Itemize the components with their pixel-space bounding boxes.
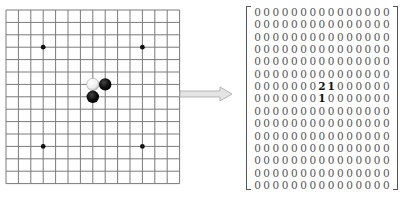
matrix-cell: 0 — [308, 92, 317, 104]
matrix-cell: 0 — [281, 31, 290, 43]
matrix-cell: 0 — [308, 43, 317, 55]
matrix-cell: 0 — [382, 31, 391, 43]
matrix-cell: 0 — [271, 68, 280, 80]
matrix-cell: 0 — [308, 6, 317, 18]
matrix-cell: 0 — [262, 18, 271, 30]
matrix-cell: 0 — [363, 179, 372, 191]
matrix-cell: 0 — [281, 117, 290, 129]
matrix-cell: 0 — [373, 92, 382, 104]
matrix-cell: 0 — [299, 154, 308, 166]
matrix-cell: 0 — [327, 31, 336, 43]
matrix-cell: 0 — [317, 167, 326, 179]
matrix-cell: 0 — [382, 167, 391, 179]
matrix-cell: 0 — [281, 6, 290, 18]
matrix-cell: 0 — [281, 167, 290, 179]
matrix-cell: 0 — [308, 55, 317, 67]
matrix-cell: 0 — [281, 68, 290, 80]
matrix-cell: 0 — [327, 142, 336, 154]
matrix-cell: 0 — [290, 43, 299, 55]
matrix-cell: 0 — [290, 117, 299, 129]
go-board — [0, 0, 190, 198]
matrix-cell: 0 — [253, 154, 262, 166]
matrix-cell: 0 — [281, 55, 290, 67]
star-point — [41, 45, 46, 50]
matrix-cell: 0 — [345, 105, 354, 117]
matrix-row: 000000000000000 — [253, 6, 391, 18]
matrix-cell: 0 — [354, 154, 363, 166]
matrix-cell: 0 — [253, 142, 262, 154]
matrix-cell: 0 — [327, 92, 336, 104]
matrix-cell: 0 — [345, 167, 354, 179]
matrix-cell: 0 — [336, 43, 345, 55]
matrix-cell: 0 — [363, 167, 372, 179]
matrix-cell: 0 — [308, 105, 317, 117]
matrix-cell: 0 — [382, 55, 391, 67]
matrix-cell: 0 — [317, 117, 326, 129]
matrix-cell: 0 — [253, 68, 262, 80]
matrix-cell: 0 — [336, 18, 345, 30]
matrix-cell: 0 — [290, 55, 299, 67]
matrix-cell: 1 — [327, 80, 336, 92]
matrix-cell: 0 — [354, 68, 363, 80]
matrix-cell: 0 — [327, 55, 336, 67]
matrix-cell: 0 — [354, 117, 363, 129]
matrix-row: 000000000000000 — [253, 130, 391, 142]
matrix-cell: 0 — [317, 55, 326, 67]
white-stone — [87, 78, 99, 90]
matrix-cell: 0 — [299, 92, 308, 104]
matrix-cell: 0 — [290, 80, 299, 92]
matrix-cell: 0 — [281, 142, 290, 154]
star-point — [140, 144, 145, 149]
matrix-cell: 0 — [271, 6, 280, 18]
matrix-cell: 0 — [345, 55, 354, 67]
matrix-cell: 0 — [299, 179, 308, 191]
matrix-cell: 0 — [317, 154, 326, 166]
matrix-cell: 0 — [354, 130, 363, 142]
matrix-cell: 0 — [317, 68, 326, 80]
matrix-cell: 0 — [262, 154, 271, 166]
matrix-cell: 0 — [373, 179, 382, 191]
matrix-cell: 0 — [262, 55, 271, 67]
matrix-cell: 0 — [262, 6, 271, 18]
matrix-cell: 0 — [262, 31, 271, 43]
matrix-cell: 0 — [363, 18, 372, 30]
matrix-cell: 0 — [373, 80, 382, 92]
matrix-cell: 0 — [382, 130, 391, 142]
matrix-row: 000000000000000 — [253, 179, 391, 191]
matrix-cell: 0 — [253, 130, 262, 142]
matrix-cell: 0 — [345, 179, 354, 191]
matrix-row: 000000000000000 — [253, 31, 391, 43]
matrix-cell: 0 — [308, 18, 317, 30]
matrix-cell: 0 — [354, 167, 363, 179]
matrix-row: 000000000000000 — [253, 105, 391, 117]
matrix-cell: 0 — [308, 130, 317, 142]
matrix-cell: 0 — [382, 18, 391, 30]
matrix-cell: 0 — [299, 105, 308, 117]
matrix-row: 000000010000000 — [253, 92, 391, 104]
matrix-cell: 0 — [281, 18, 290, 30]
matrix-cell: 0 — [363, 130, 372, 142]
matrix-cell: 0 — [327, 105, 336, 117]
matrix-cell: 0 — [253, 92, 262, 104]
matrix-cell: 0 — [354, 92, 363, 104]
matrix-cell: 0 — [308, 154, 317, 166]
matrix-cell: 0 — [262, 142, 271, 154]
matrix-cell: 0 — [308, 80, 317, 92]
matrix-cell: 0 — [271, 167, 280, 179]
matrix-cell: 0 — [299, 167, 308, 179]
matrix-cell: 0 — [317, 179, 326, 191]
matrix-cell: 0 — [363, 6, 372, 18]
matrix-cell: 0 — [327, 117, 336, 129]
matrix-cell: 0 — [345, 142, 354, 154]
matrix-cell: 0 — [299, 68, 308, 80]
matrix-cell: 0 — [262, 80, 271, 92]
matrix-row: 000000000000000 — [253, 117, 391, 129]
matrix-cell: 0 — [281, 130, 290, 142]
matrix-cell: 0 — [271, 130, 280, 142]
matrix-cell: 0 — [317, 43, 326, 55]
matrix-cell: 0 — [271, 18, 280, 30]
matrix-cell: 0 — [317, 31, 326, 43]
black-stone — [87, 91, 99, 103]
matrix-cell: 0 — [299, 55, 308, 67]
matrix-row: 000000000000000 — [253, 142, 391, 154]
